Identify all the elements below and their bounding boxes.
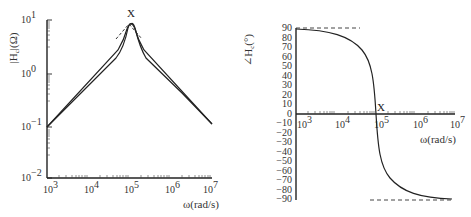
resonance-marker: X	[127, 7, 135, 19]
svg-text:0: 0	[31, 63, 36, 74]
phase-x-label: ω(rad/s)	[420, 133, 456, 146]
svg-text:10: 10	[43, 184, 53, 195]
magnitude-chart: |Hc|(Ω) 101 100 10−1 10−2	[7, 7, 219, 211]
svg-text:1: 1	[31, 9, 36, 20]
phase-y-label: ∠Hc(°)	[242, 34, 256, 66]
zero-crossing-marker: X	[377, 101, 385, 113]
bode-plots: |Hc|(Ω) 101 100 10−1 10−2	[0, 0, 471, 217]
phase-x-ticks: 103 104 105 106 107	[297, 114, 465, 130]
svg-text:−2: −2	[31, 167, 42, 178]
phase-chart: ∠Hc(°) 90 80 70 60 50 40 30 20 10 0 −10 …	[242, 22, 465, 204]
magnitude-y-ticks: 101 100 10−1 10−2	[21, 9, 42, 183]
phase-y-ticks: 90 80 70 60 50 40 30 20 10 0 −10 −20 −30…	[276, 22, 292, 204]
magnitude-x-label: ω(rad/s)	[183, 198, 219, 211]
svg-text:10: 10	[21, 121, 31, 132]
magnitude-x-ticks: 103 104 105 106 107	[43, 179, 218, 195]
svg-text:−1: −1	[31, 116, 42, 127]
svg-text:10: 10	[450, 119, 460, 130]
svg-text:10: 10	[84, 184, 94, 195]
svg-text:5: 5	[134, 179, 139, 190]
svg-text:5: 5	[384, 114, 389, 125]
svg-text:4: 4	[94, 179, 99, 190]
svg-text:10: 10	[124, 184, 134, 195]
magnitude-curve	[47, 24, 212, 128]
svg-text:10: 10	[21, 14, 31, 25]
svg-text:10: 10	[203, 184, 213, 195]
svg-text:10: 10	[21, 68, 31, 79]
magnitude-y-label: |Hc|(Ω)	[7, 32, 21, 63]
svg-text:10: 10	[374, 119, 384, 130]
svg-text:10: 10	[413, 119, 423, 130]
svg-text:6: 6	[175, 179, 180, 190]
svg-text:3: 3	[53, 179, 58, 190]
svg-text:−90: −90	[276, 193, 292, 204]
svg-text:4: 4	[345, 114, 350, 125]
svg-text:7: 7	[213, 179, 218, 190]
svg-text:10: 10	[297, 119, 307, 130]
svg-text:3: 3	[307, 114, 312, 125]
svg-text:7: 7	[460, 114, 465, 125]
svg-text:10: 10	[165, 184, 175, 195]
svg-text:10: 10	[21, 172, 31, 183]
svg-text:10: 10	[335, 119, 345, 130]
svg-text:6: 6	[423, 114, 428, 125]
